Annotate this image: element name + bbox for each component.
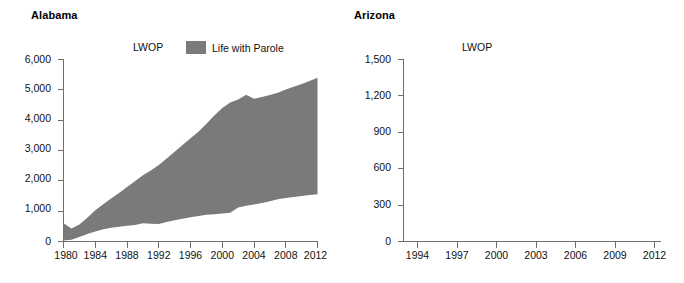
xtick-label-alabama: 2012 <box>304 249 328 261</box>
xtick-label-alabama: 2008 <box>274 249 298 261</box>
ytick-label-arizona: 1,500 <box>365 53 391 65</box>
xtick-label-arizona: 1997 <box>445 249 469 261</box>
plot-alabama: 6,000 5,000 4,000 3,000 2,000 1,000 0 <box>0 0 342 283</box>
ytick-label-alabama: 1,000 <box>25 202 51 214</box>
ytick-label-alabama: 0 <box>45 235 51 247</box>
xtick-label-arizona: 2000 <box>485 249 509 261</box>
ytick-label-arizona: 600 <box>373 161 391 173</box>
ytick-label-arizona: 300 <box>373 198 391 210</box>
plot-arizona: 1,500 1,200 900 600 300 0 1994 <box>342 0 684 283</box>
xtick-label-arizona: 2006 <box>564 249 588 261</box>
ytick-label-alabama: 4,000 <box>25 112 51 124</box>
figure-two-panel-area-charts: Alabama LWOP Life with Parole 6,000 5,00… <box>0 0 684 283</box>
ytick-label-alabama: 2,000 <box>25 172 51 184</box>
ytick-label-arizona: 1,200 <box>365 89 391 101</box>
ytick-label-arizona: 0 <box>385 235 391 247</box>
ytick-label-arizona: 900 <box>373 125 391 137</box>
ytick-label-alabama: 3,000 <box>25 142 51 154</box>
xtick-label-alabama: 2004 <box>242 249 266 261</box>
xtick-label-alabama: 2000 <box>211 249 235 261</box>
panel-arizona: Arizona LWOP 1,500 1,200 900 600 300 0 <box>342 0 684 283</box>
xtick-label-alabama: 1988 <box>115 249 139 261</box>
area-band-alabama <box>64 78 318 241</box>
ytick-label-alabama: 6,000 <box>25 53 51 65</box>
ytick-label-alabama: 5,000 <box>25 82 51 94</box>
xtick-label-alabama: 1980 <box>54 249 78 261</box>
xtick-label-alabama: 1996 <box>179 249 203 261</box>
xtick-label-arizona: 2009 <box>603 249 627 261</box>
xtick-label-arizona: 2003 <box>524 249 548 261</box>
xtick-label-arizona: 1994 <box>406 249 430 261</box>
panel-alabama: Alabama LWOP Life with Parole 6,000 5,00… <box>0 0 342 283</box>
xtick-label-alabama: 1984 <box>84 249 108 261</box>
xtick-label-arizona: 2012 <box>643 249 667 261</box>
xtick-label-alabama: 1992 <box>147 249 171 261</box>
